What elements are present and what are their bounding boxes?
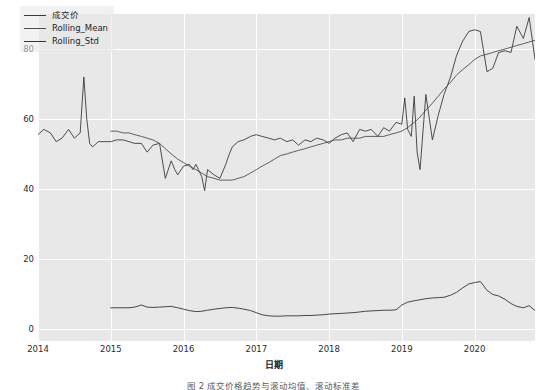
legend-label-price: 成交价: [52, 11, 79, 20]
x-tick-label: 2020: [464, 345, 486, 354]
plot-area: [38, 14, 535, 341]
legend-label-rolling-mean: Rolling_Mean: [52, 24, 108, 33]
y-tick-label: 20: [4, 255, 34, 264]
chart-figure: 020406080 2014201520162017201820192020 日…: [0, 0, 547, 390]
legend-item[interactable]: Rolling_Mean: [24, 22, 108, 35]
series-lines: [38, 14, 535, 341]
figure-caption: 图 2 成交价格趋势与滚动均值、滚动标准差: [0, 379, 547, 390]
x-tick-label: 2014: [27, 345, 49, 354]
chart-legend: 成交价 Rolling_Mean Rolling_Std: [20, 6, 114, 52]
x-tick-label: 2018: [318, 345, 340, 354]
legend-item[interactable]: Rolling_Std: [24, 35, 108, 48]
x-tick-label: 2015: [100, 345, 122, 354]
series-line-rolling-std: [111, 282, 535, 317]
x-tick-label: 2017: [245, 345, 267, 354]
legend-label-rolling-std: Rolling_Std: [52, 37, 99, 46]
y-tick-label: 60: [4, 115, 34, 124]
x-tick-label: 2016: [173, 345, 195, 354]
x-tick-label: 2019: [391, 345, 413, 354]
legend-item[interactable]: 成交价: [24, 9, 108, 22]
legend-swatch-price: [24, 15, 46, 16]
legend-swatch-rolling-mean: [24, 28, 46, 29]
y-axis-ticks: 020406080: [0, 0, 34, 390]
x-axis-title: 日期: [0, 358, 547, 371]
legend-swatch-rolling-std: [24, 41, 46, 42]
series-line-rolling-mean: [111, 40, 535, 180]
y-tick-label: 0: [4, 325, 34, 334]
y-tick-label: 40: [4, 185, 34, 194]
